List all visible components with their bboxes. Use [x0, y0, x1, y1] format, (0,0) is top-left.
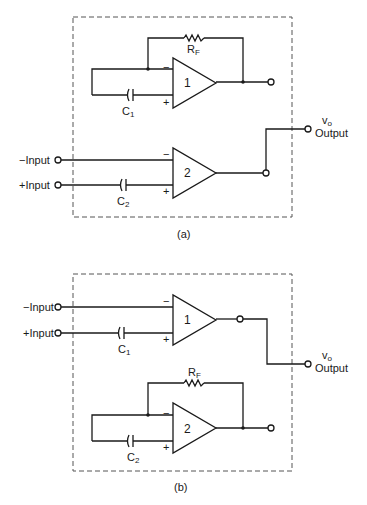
minus-input-terminal[interactable]	[55, 304, 61, 310]
opamp-number: 1	[184, 76, 191, 90]
opamp-number: 1	[184, 313, 191, 327]
minus-input-terminal[interactable]	[55, 157, 61, 163]
output-label: Output	[315, 362, 348, 374]
opamp-triangle	[173, 403, 216, 453]
junction-dot	[146, 67, 150, 71]
opamp-1-b: −Input +Input 1 − + C1 vo Output	[23, 295, 348, 374]
plus-input-terminal[interactable]	[55, 182, 61, 188]
output-wire-b	[243, 319, 305, 364]
plus-input-terminal[interactable]	[55, 330, 61, 336]
plus-sign: +	[163, 185, 169, 197]
minus-sign: −	[163, 407, 169, 419]
output-terminal[interactable]	[305, 361, 311, 367]
resistor-label: RF	[188, 366, 201, 380]
plus-sign: +	[163, 441, 169, 453]
capacitor-label: C2	[127, 451, 140, 465]
panel-caption: (a)	[177, 228, 190, 240]
output-wire-a	[266, 129, 305, 170]
terminal-node	[268, 425, 274, 431]
circuit-diagram: 1 − + RF C1 −Input +Input 2 − + C	[0, 0, 367, 505]
minus-input-label: −Input	[19, 154, 50, 166]
capacitor-label: C1	[122, 105, 135, 119]
output-symbol: vo	[322, 114, 333, 128]
panel-caption: (b)	[174, 481, 187, 493]
opamp-triangle	[173, 58, 216, 108]
capacitor-c2-a	[121, 179, 123, 191]
terminal-node	[237, 316, 243, 322]
output-terminal[interactable]	[305, 126, 311, 132]
junction-dot	[146, 413, 150, 417]
resistor-label: RF	[187, 43, 200, 57]
resistor-rf-b	[184, 380, 204, 386]
output-symbol: vo	[322, 349, 333, 363]
minus-sign: −	[163, 148, 169, 160]
plus-sign: +	[163, 96, 169, 108]
opamp-number: 2	[184, 166, 191, 180]
junction-dot	[241, 80, 245, 84]
capacitor-c1-b	[119, 327, 121, 339]
opamp-1-a: 1 − + RF C1	[92, 35, 274, 119]
terminal-node	[263, 170, 269, 176]
plus-sign: +	[163, 333, 169, 345]
plus-input-label: +Input	[19, 179, 50, 191]
opamp-triangle	[173, 295, 216, 345]
plus-input-label: +Input	[23, 327, 54, 339]
resistor-rf-a	[184, 35, 204, 41]
capacitor-label: C2	[117, 195, 130, 209]
panel-b: −Input +Input 1 − + C1 vo Output	[23, 274, 348, 493]
minus-sign: −	[163, 61, 169, 73]
junction-dot	[241, 426, 245, 430]
minus-input-label: −Input	[23, 301, 54, 313]
capacitor-c2-b	[128, 435, 130, 447]
terminal-node	[268, 79, 274, 85]
capacitor-c1-a	[128, 89, 130, 101]
output-label: Output	[315, 127, 348, 139]
opamp-triangle	[173, 148, 216, 198]
minus-sign: −	[163, 295, 169, 307]
opamp-2-a: −Input +Input 2 − + C2 vo Output	[19, 114, 348, 209]
panel-a: 1 − + RF C1 −Input +Input 2 − + C	[19, 17, 348, 240]
opamp-number: 2	[184, 422, 191, 436]
capacitor-label: C1	[118, 343, 131, 357]
opamp-2-b: 2 − + RF C2	[92, 366, 274, 465]
